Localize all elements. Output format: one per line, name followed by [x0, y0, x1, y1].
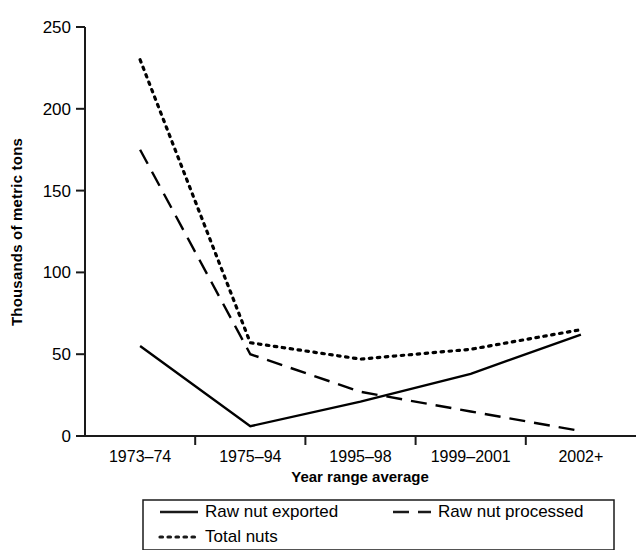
- series-line-total-nuts: [140, 60, 581, 359]
- y-axis-tick-labels: 050100150200250: [43, 18, 71, 446]
- chart-axes: [85, 27, 636, 436]
- series-line-raw-nut-exported: [140, 335, 581, 427]
- x-axis-title: Year range average: [291, 468, 429, 485]
- x-category-label: 1975–94: [219, 448, 281, 465]
- x-category-label: 2002+: [558, 448, 603, 465]
- y-tick-label: 250: [43, 18, 71, 37]
- y-tick-label: 50: [52, 345, 71, 364]
- legend-label: Raw nut processed: [438, 502, 584, 521]
- x-category-label: 1999–2001: [431, 448, 511, 465]
- x-category-label: 1995–98: [329, 448, 391, 465]
- y-tick-label: 100: [43, 263, 71, 282]
- series-line-raw-nut-processed: [140, 150, 581, 431]
- line-chart: 050100150200250 1973–741975–941995–98199…: [0, 0, 642, 550]
- legend-label: Total nuts: [205, 527, 278, 546]
- x-category-label: 1973–74: [109, 448, 171, 465]
- y-tick-label: 200: [43, 100, 71, 119]
- y-tick-label: 150: [43, 182, 71, 201]
- data-series-layer: [140, 60, 581, 431]
- legend-label: Raw nut exported: [205, 502, 338, 521]
- y-axis-ticks: [76, 27, 85, 436]
- y-tick-label: 0: [62, 427, 71, 446]
- chart-container: 050100150200250 1973–741975–941995–98199…: [0, 0, 642, 550]
- x-axis-ticks: [195, 436, 526, 445]
- x-axis-category-labels: 1973–741975–941995–981999–20012002+: [109, 448, 603, 465]
- chart-legend: Raw nut exportedRaw nut processedTotal n…: [143, 500, 614, 550]
- y-axis-title: Thousands of metric tons: [8, 138, 25, 326]
